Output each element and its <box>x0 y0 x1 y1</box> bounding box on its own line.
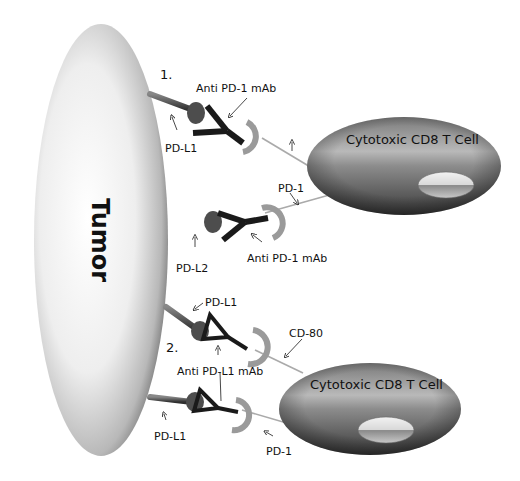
cd80-receptor <box>248 330 268 364</box>
panel-number-2: 2. <box>166 341 178 354</box>
label-pd1-mid: PD-1 <box>278 183 304 194</box>
label-pdl2: PD-L2 <box>176 263 208 274</box>
pd1-receptor-bottom <box>232 400 249 430</box>
panel-number-1: 1. <box>160 68 172 81</box>
pd1-receptor-top <box>243 122 256 152</box>
label-pdl1-lower: PD-L1 <box>205 297 237 308</box>
anti-pdl1-antibody-top <box>203 315 247 349</box>
pd-l2-ligand <box>165 211 222 233</box>
tumor-label: Tumor <box>86 198 114 282</box>
nucleus <box>418 172 474 198</box>
label-cd80: CD-80 <box>289 328 323 339</box>
label-anti-pd1-top: Anti PD-1 mAb <box>196 83 276 94</box>
t-cell-1-label: Cytotoxic CD8 T Cell <box>346 133 479 146</box>
label-pd1-bottom: PD-1 <box>266 446 292 457</box>
label-pdl1-top: PD-L1 <box>165 143 197 154</box>
label-pdl1-bottom: PD-L1 <box>154 431 186 442</box>
pd-l1-ligand-top <box>150 94 205 124</box>
nucleus <box>358 417 414 443</box>
label-anti-pd1-mid: Anti PD-1 mAb <box>247 253 327 264</box>
label-anti-pdl1: Anti PD-L1 mAb <box>177 366 263 377</box>
anti-pd1-antibody-mid <box>218 213 268 240</box>
pd1-receptor-mid <box>262 207 283 238</box>
t-cell-2-label: Cytotoxic CD8 T Cell <box>310 378 443 391</box>
diagram-canvas <box>0 0 520 481</box>
